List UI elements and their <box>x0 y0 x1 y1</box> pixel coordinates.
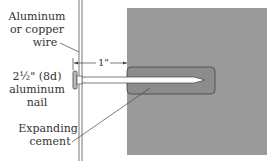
dimension-label: 1" <box>98 57 109 68</box>
nail-label-line-1: 2½" (8d) <box>13 70 62 83</box>
nail-neck <box>77 76 82 84</box>
nail-label-line-3: nail <box>27 96 48 109</box>
nail-head <box>73 71 77 89</box>
wire-label-line-3: wire <box>33 36 58 49</box>
wire-label-line-2: or copper <box>10 23 65 36</box>
nail-anchor-diagram: 1" Aluminum or copper wire 2½" (8d) alum… <box>0 0 272 161</box>
cement-label-line-1: Expanding <box>18 122 78 135</box>
nail-label-line-2: aluminum <box>9 83 65 96</box>
cement-label-line-2: cement <box>29 135 71 148</box>
wire-label-line-1: Aluminum <box>7 10 66 23</box>
dimension-arrow-left <box>74 62 78 65</box>
dimension-arrow-right <box>123 62 127 65</box>
wire-leader <box>60 43 79 52</box>
nail-shaft <box>82 77 205 83</box>
